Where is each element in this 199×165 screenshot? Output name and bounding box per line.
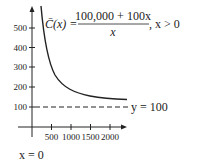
chart: 500 400 300 200 100 500 1000 1500 2000 y… bbox=[0, 0, 199, 165]
formula: C̄(x) = 100,000 + 100x x , x > 0 bbox=[45, 9, 180, 39]
y-tick-label: 300 bbox=[14, 62, 28, 72]
x-tick-label: 1000 bbox=[62, 132, 81, 142]
formula-lhs: C̄(x) = bbox=[45, 17, 77, 31]
y-tick-label: 500 bbox=[14, 23, 28, 33]
y-tick-label: 200 bbox=[14, 82, 28, 92]
asymptote-label: y = 100 bbox=[131, 100, 168, 114]
x-tick-label: 2000 bbox=[101, 132, 120, 142]
y-tick-label: 400 bbox=[14, 43, 28, 53]
formula-numerator: 100,000 + 100x bbox=[75, 9, 151, 23]
x-tick-label: 1500 bbox=[82, 132, 101, 142]
x-tick-label: 500 bbox=[45, 132, 59, 142]
y-axis-arrow-icon bbox=[30, 6, 35, 12]
formula-denominator: x bbox=[109, 25, 116, 39]
vertical-asymptote-label: x = 0 bbox=[19, 148, 44, 162]
y-tick-label: 100 bbox=[14, 102, 28, 112]
formula-condition: , x > 0 bbox=[149, 17, 180, 31]
x-axis-arrow-icon bbox=[121, 125, 127, 130]
